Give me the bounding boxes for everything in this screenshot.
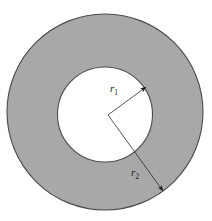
inner-radius-subscript: 1: [114, 88, 118, 97]
inner-circle-outline: [58, 67, 153, 162]
outer-radius-subscript: 2: [135, 172, 139, 181]
annulus-diagram: r1 r2: [0, 0, 212, 221]
figure-canvas: r1 r2: [0, 0, 212, 221]
